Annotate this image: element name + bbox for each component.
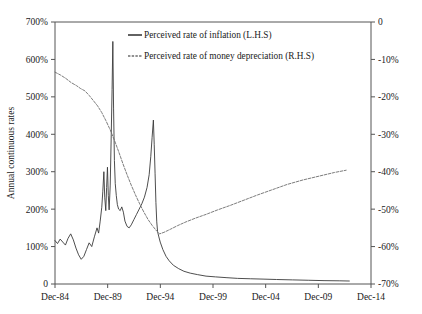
x-axis-tick-label: Dec-94	[146, 292, 174, 302]
x-axis-tick-label: Dec-04	[252, 292, 280, 302]
left-axis-tick-label: 500%	[26, 92, 48, 102]
left-axis-tick-label: 600%	[26, 55, 48, 65]
series-line-depreciation	[55, 72, 346, 234]
legend-label: Perceived rate of money depreciation (R.…	[144, 51, 314, 62]
series-lines	[55, 41, 349, 281]
y-axis-title-label: Annual continuous rates	[6, 107, 16, 200]
right-axis-tick-label: -30%	[378, 130, 399, 140]
left-axis-tick-label: 300%	[26, 167, 48, 177]
left-axis: 0100%200%300%400%500%600%700%	[26, 17, 55, 289]
x-axis-tick-label: Dec-99	[199, 292, 227, 302]
right-axis: 0-10%-20%-30%-40%-50%-60%-70%	[371, 17, 399, 289]
x-axis-tick-label: Dec-89	[94, 292, 122, 302]
chart-legend: Perceived rate of inflation (L.H.S)Perce…	[128, 30, 314, 62]
right-axis-tick-label: -10%	[378, 55, 399, 65]
left-axis-tick-label: 0	[43, 279, 48, 289]
x-axis-tick-label: Dec-09	[304, 292, 332, 302]
legend-label: Perceived rate of inflation (L.H.S)	[144, 30, 272, 41]
x-axis-tick-label: Dec-84	[41, 292, 69, 302]
left-axis-tick-label: 700%	[26, 17, 48, 27]
right-axis-tick-label: -50%	[378, 205, 399, 215]
left-axis-tick-label: 100%	[26, 242, 48, 252]
right-axis-tick-label: -70%	[378, 279, 399, 289]
y-axis-title: Annual continuous rates	[6, 107, 16, 200]
right-axis-tick-label: 0	[378, 17, 383, 27]
inflation-depreciation-line-chart: 0100%200%300%400%500%600%700% 0-10%-20%-…	[0, 0, 422, 314]
series-line-inflation	[55, 41, 349, 281]
x-axis-tick-label: Dec-14	[357, 292, 385, 302]
left-axis-tick-label: 200%	[26, 205, 48, 215]
left-axis-tick-label: 400%	[26, 130, 48, 140]
right-axis-tick-label: -60%	[378, 242, 399, 252]
chart-container: 0100%200%300%400%500%600%700% 0-10%-20%-…	[0, 0, 422, 314]
x-axis: Dec-84Dec-89Dec-94Dec-99Dec-04Dec-09Dec-…	[41, 284, 385, 302]
right-axis-tick-label: -20%	[378, 92, 399, 102]
right-axis-tick-label: -40%	[378, 167, 399, 177]
